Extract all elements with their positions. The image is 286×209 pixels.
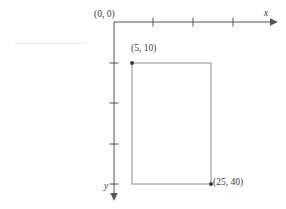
y-axis-arrowhead-icon: [110, 193, 117, 201]
diagram-canvas: [0, 0, 286, 209]
point-label-bottom-right: (25, 40): [213, 177, 243, 188]
y-axis-label: y: [104, 181, 108, 192]
coordinate-diagram-figure: (0, 0) (5, 10) (25, 40) x y: [0, 0, 286, 209]
x-axis-arrowhead-icon: [270, 18, 278, 25]
x-axis-label: x: [264, 8, 268, 19]
origin-label: (0, 0): [94, 9, 115, 20]
plotted-rectangle: [132, 63, 211, 184]
point-label-top-left: (5, 10): [131, 43, 156, 54]
point-marker-top-left: [130, 61, 134, 65]
